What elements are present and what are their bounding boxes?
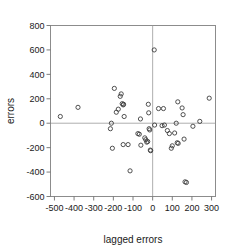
data-point bbox=[126, 142, 130, 146]
data-point bbox=[182, 137, 186, 141]
data-point bbox=[110, 146, 114, 150]
y-tick-label: 200 bbox=[29, 94, 44, 104]
y-tick-label: 800 bbox=[29, 21, 44, 31]
x-axis-title: lagged errors bbox=[104, 234, 163, 245]
x-tick-label: -400 bbox=[65, 203, 83, 213]
data-point bbox=[128, 169, 132, 173]
x-tick-label: 0 bbox=[150, 203, 155, 213]
data-point bbox=[176, 100, 180, 104]
y-tick-label: 600 bbox=[29, 45, 44, 55]
data-point bbox=[121, 142, 125, 146]
data-point bbox=[161, 106, 165, 110]
y-tick-label: 0 bbox=[39, 118, 44, 128]
data-point bbox=[112, 86, 116, 90]
x-tick-label: -300 bbox=[85, 203, 103, 213]
x-tick-label: -100 bbox=[124, 203, 142, 213]
y-axis-title: errors bbox=[5, 98, 16, 124]
scatter-plot-figure: -600-400-2000200400600800-500-400-300-20… bbox=[0, 0, 235, 250]
data-point bbox=[139, 143, 143, 147]
data-point bbox=[108, 127, 112, 131]
data-point bbox=[76, 105, 80, 109]
data-point bbox=[122, 114, 126, 118]
data-point bbox=[181, 113, 185, 117]
y-tick-label: 400 bbox=[29, 70, 44, 80]
x-tick-label: 300 bbox=[204, 203, 219, 213]
x-tick-label: -500 bbox=[45, 203, 63, 213]
plot-frame bbox=[51, 26, 216, 197]
data-point bbox=[147, 111, 151, 115]
x-tick-label: 100 bbox=[165, 203, 180, 213]
data-point bbox=[146, 102, 150, 106]
data-point bbox=[173, 131, 177, 135]
data-point bbox=[180, 106, 184, 110]
data-point bbox=[58, 114, 62, 118]
data-point bbox=[138, 117, 142, 121]
data-point bbox=[156, 106, 160, 110]
data-point bbox=[191, 124, 195, 128]
y-tick-label: -200 bbox=[26, 143, 44, 153]
data-point bbox=[207, 96, 211, 100]
x-tick-label: 200 bbox=[184, 203, 199, 213]
y-tick-label: -600 bbox=[26, 192, 44, 202]
y-tick-label: -400 bbox=[26, 167, 44, 177]
plot-canvas: -600-400-2000200400600800-500-400-300-20… bbox=[0, 0, 235, 250]
x-tick-label: -200 bbox=[104, 203, 122, 213]
